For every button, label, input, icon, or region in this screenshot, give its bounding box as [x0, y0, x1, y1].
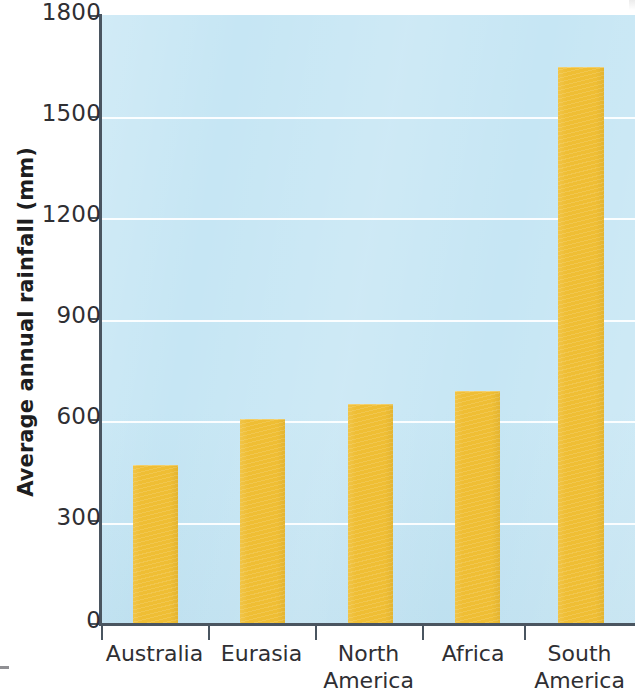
gridline-1200: [101, 218, 635, 220]
y-tick-label-1200: 1200: [39, 201, 101, 227]
bar-africa[interactable]: [455, 391, 500, 624]
rainfall-bar-chart-figure: 1800 1500 1200 900 600 300 0 Australia E…: [0, 0, 635, 700]
x-tick-label-eurasia: Eurasia: [208, 640, 315, 667]
x-tick-mark-2: [315, 624, 317, 640]
x-tick-mark-1: [208, 624, 210, 640]
y-tick-label-300: 300: [39, 504, 101, 530]
scan-edge-mark: [0, 666, 9, 669]
bar-australia[interactable]: [133, 465, 178, 624]
y-tick-label-600: 600: [39, 403, 101, 429]
y-tick-label-900: 900: [39, 302, 101, 328]
x-tick-label-south-america: South America: [524, 640, 635, 694]
x-tick-mark-3: [422, 624, 424, 640]
x-axis-line: [99, 623, 635, 626]
y-tick-label-1500: 1500: [39, 100, 101, 126]
x-tick-mark-0: [101, 624, 103, 640]
plot-area: [101, 15, 635, 624]
gridline-1500: [101, 117, 635, 119]
y-tick-label-1800: 1800: [39, 0, 101, 25]
y-tick-label-0: 0: [39, 607, 101, 633]
x-tick-label-africa: Africa: [422, 640, 524, 667]
y-axis-title: Average annual rainfall (mm): [14, 132, 38, 512]
scan-corner-mark: [629, 0, 635, 10]
gridline-900: [101, 320, 635, 322]
x-tick-label-australia: Australia: [101, 640, 208, 667]
x-tick-mark-4: [524, 624, 526, 640]
bar-north-america[interactable]: [348, 404, 393, 624]
bar-south-america[interactable]: [558, 67, 604, 624]
bar-eurasia[interactable]: [240, 419, 285, 624]
x-tick-label-north-america: North America: [315, 640, 422, 694]
